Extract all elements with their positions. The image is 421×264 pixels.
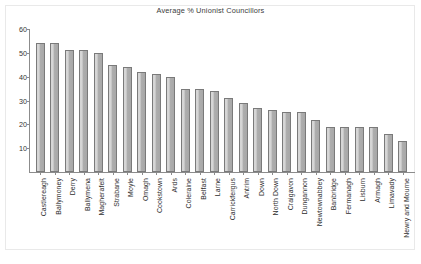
- y-axis-tick-label: 20: [5, 120, 27, 129]
- bar: [36, 43, 45, 172]
- x-axis-tick-mark: [345, 172, 346, 175]
- x-axis-category-label: Magherafelt: [98, 178, 105, 216]
- x-axis-tick-mark: [69, 172, 70, 175]
- bar: [65, 50, 74, 172]
- x-axis-tick-mark: [214, 172, 215, 175]
- bar: [355, 127, 364, 172]
- x-axis-tick-mark: [113, 172, 114, 175]
- y-axis-tick-label: 30: [5, 96, 27, 105]
- x-axis-category-label: Banbridge: [330, 178, 337, 210]
- y-axis-tick-label: 60: [5, 25, 27, 34]
- x-axis-category-label: Omagh: [142, 178, 149, 201]
- x-axis-tick-mark: [258, 172, 259, 175]
- x-axis-category-label: Ballymoney: [55, 178, 62, 215]
- x-axis-category-label: Ards: [171, 178, 178, 193]
- x-axis-tick-mark: [127, 172, 128, 175]
- bar: [108, 65, 117, 172]
- x-axis-tick-mark: [403, 172, 404, 175]
- x-axis-tick-mark: [374, 172, 375, 175]
- x-axis-tick-mark: [243, 172, 244, 175]
- bar: [311, 120, 320, 172]
- bar: [282, 112, 291, 172]
- x-axis-category-label: Newry and Mourne: [403, 178, 410, 238]
- plot-area: [30, 29, 415, 172]
- x-axis-tick-mark: [171, 172, 172, 175]
- chart-title: Average % Unionist Councillors: [0, 6, 421, 15]
- x-axis-category-label: Newtownabbey: [316, 178, 323, 226]
- x-axis-category-label: Strabane: [113, 178, 120, 207]
- chart-container: Average % Unionist Councillors 102030405…: [0, 0, 421, 264]
- x-axis-tick-mark: [185, 172, 186, 175]
- bar: [326, 127, 335, 172]
- x-axis-tick-mark: [359, 172, 360, 175]
- x-axis-tick-mark: [55, 172, 56, 175]
- x-axis-tick-mark: [84, 172, 85, 175]
- bar: [79, 50, 88, 172]
- bar: [224, 98, 233, 172]
- x-axis-tick-mark: [301, 172, 302, 175]
- bar: [195, 89, 204, 172]
- bar: [152, 74, 161, 172]
- bar: [50, 43, 59, 172]
- bar: [398, 141, 407, 172]
- x-axis-tick-mark: [316, 172, 317, 175]
- x-axis-tick-mark: [142, 172, 143, 175]
- x-axis-tick-mark: [272, 172, 273, 175]
- y-axis-tick-label: 50: [5, 48, 27, 57]
- x-axis-category-label: North Down: [272, 178, 279, 215]
- x-axis-category-label: Derry: [69, 178, 76, 195]
- x-axis-category-label: Ballymena: [84, 178, 91, 211]
- x-axis-category-label: Dungannon: [301, 178, 308, 215]
- x-axis-tick-mark: [287, 172, 288, 175]
- x-axis-category-label: Coleraine: [185, 178, 192, 208]
- bar: [166, 77, 175, 172]
- x-axis-category-label: Moyle: [127, 178, 134, 197]
- y-axis-tick-labels: 102030405060: [0, 0, 27, 264]
- x-axis-category-label: Fermanagh: [345, 178, 352, 214]
- bar: [123, 67, 132, 172]
- x-axis-category-label: Belfast: [200, 178, 207, 200]
- x-axis-tick-mark: [98, 172, 99, 175]
- y-axis-tick-label: 10: [5, 144, 27, 153]
- bar: [137, 72, 146, 172]
- y-axis-tick-label: 40: [5, 72, 27, 81]
- bar: [369, 127, 378, 172]
- bar: [210, 91, 219, 172]
- x-axis-tick-mark: [330, 172, 331, 175]
- x-axis-category-label: Antrim: [243, 178, 250, 199]
- x-axis-category-label: Cookstown: [156, 178, 163, 213]
- bar: [94, 53, 103, 172]
- x-axis-tick-mark: [229, 172, 230, 175]
- x-axis-tick-mark: [388, 172, 389, 175]
- bar: [384, 134, 393, 172]
- bar: [340, 127, 349, 172]
- x-axis-line: [29, 172, 415, 173]
- bar: [253, 108, 262, 172]
- x-axis-tick-mark: [156, 172, 157, 175]
- x-axis-category-label: Carrickfergus: [229, 178, 236, 220]
- x-axis-category-label: Lisburn: [359, 178, 366, 201]
- bar: [239, 103, 248, 172]
- x-axis-category-label: Larne: [214, 178, 221, 196]
- x-axis-category-label: Down: [258, 178, 265, 196]
- x-axis-category-label: Castlereagh: [40, 178, 47, 216]
- bar: [297, 112, 306, 172]
- x-axis-category-label: Craigavon: [287, 178, 294, 210]
- x-axis-category-label: Limavady: [388, 178, 395, 208]
- x-axis-category-label: Armagh: [374, 178, 381, 203]
- x-axis-tick-mark: [200, 172, 201, 175]
- bar: [181, 89, 190, 172]
- bar: [268, 110, 277, 172]
- x-axis-tick-mark: [40, 172, 41, 175]
